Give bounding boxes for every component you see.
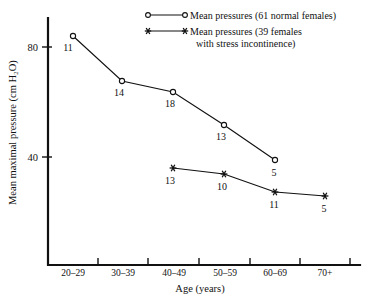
chart-container: 80 40 Mean maximal pressure (cm H₂O) 20–…: [0, 0, 369, 304]
y-tick-label-40: 40: [28, 152, 39, 163]
x-category-label-20-29: 20–29: [61, 268, 85, 278]
data-point-marker: [272, 189, 279, 195]
x-axis-labels: 20–29 30–39 40–49 50–59 60–69 70+: [61, 268, 332, 278]
data-point-marker: [170, 165, 177, 171]
legend-star-icon: [145, 28, 151, 34]
data-point-marker: [221, 122, 226, 127]
legend-star-icon: [182, 28, 188, 34]
chart-legend: Mean pressures (61 normal females) Mean …: [145, 10, 336, 50]
data-point-label: 11: [269, 199, 279, 210]
data-point-label: 18: [165, 98, 175, 109]
data-point-marker: [272, 157, 277, 162]
x-category-label-30-39: 30–39: [111, 268, 135, 278]
data-point-marker: [221, 171, 228, 177]
data-point-label: 10: [217, 181, 227, 192]
series-stress-incontinence-line: [173, 168, 325, 196]
data-point-label: 11: [63, 42, 73, 53]
data-point-label: 13: [216, 131, 226, 142]
chart-axes: [48, 18, 360, 265]
x-category-label-60-69: 60–69: [263, 268, 287, 278]
data-point-label: 5: [272, 167, 277, 178]
legend-label-stress-incontinence-line1: Mean pressures (39 females: [190, 26, 302, 38]
series-stress-incontinence: 13 10 11 5: [165, 165, 328, 214]
data-point-label: 14: [114, 87, 124, 98]
x-category-label-50-59: 50–59: [213, 268, 237, 278]
legend-open-circle-icon: [146, 13, 151, 18]
y-axis-title: Mean maximal pressure (cm H₂O): [7, 60, 19, 205]
legend-entry-normal-females[interactable]: Mean pressures (61 normal females): [146, 10, 336, 22]
data-point-label: 13: [165, 175, 175, 186]
legend-label-stress-incontinence-line2: with stress incontinence): [196, 38, 295, 50]
data-point-marker: [119, 78, 124, 83]
x-axis-title: Age (years): [175, 283, 225, 295]
data-point-marker: [70, 33, 75, 38]
y-tick-label-80: 80: [28, 42, 39, 53]
series-normal-females: 11 14 18 13 5: [63, 33, 277, 178]
legend-entry-stress-incontinence[interactable]: Mean pressures (39 females with stress i…: [145, 26, 302, 50]
line-chart: 80 40 Mean maximal pressure (cm H₂O) 20–…: [0, 0, 369, 304]
data-point-label: 5: [322, 203, 327, 214]
data-point-marker: [322, 193, 329, 199]
legend-open-circle-icon: [183, 13, 188, 18]
x-category-label-40-49: 40–49: [162, 268, 186, 278]
x-category-label-70-plus: 70+: [318, 268, 333, 278]
legend-label-normal-females: Mean pressures (61 normal females): [190, 10, 336, 22]
data-point-marker: [170, 89, 175, 94]
